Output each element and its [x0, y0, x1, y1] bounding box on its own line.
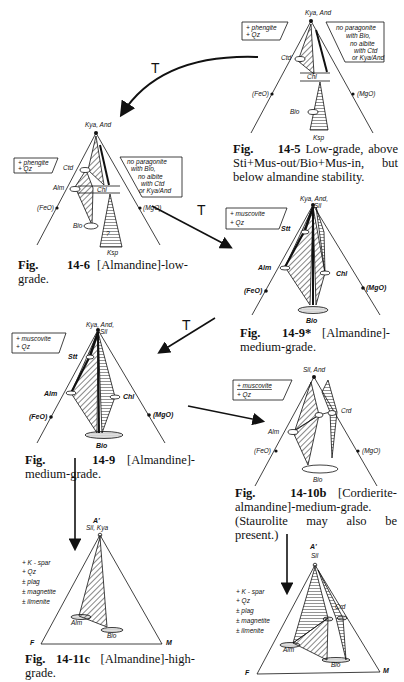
svg-text:(MgO): (MgO) [366, 284, 387, 292]
caption-14-6: Fig. 14-6 [Almandine]-low-grade. [18, 258, 188, 286]
svg-text:+ Qz: + Qz [18, 165, 33, 173]
arrow-14-5-to-14-6 [122, 57, 258, 114]
svg-text:+ Qz: + Qz [237, 391, 252, 399]
figure-14-9-star: Kya, And, Sil Stt Alm Chl Bio (FeO) (MgO… [226, 195, 387, 324]
svg-text:(MgO): (MgO) [153, 411, 174, 419]
svg-text:A': A' [92, 517, 100, 524]
svg-text:(FeO): (FeO) [244, 287, 263, 295]
svg-text:Bio: Bio [331, 661, 341, 668]
svg-text:Alm: Alm [282, 646, 295, 653]
svg-text:+ muscovite: + muscovite [16, 335, 51, 342]
svg-text:or Kya/And: or Kya/And [139, 187, 172, 195]
svg-text:Chl: Chl [97, 186, 107, 193]
svg-text:F: F [245, 669, 250, 676]
svg-text:Alm: Alm [52, 184, 65, 191]
svg-text:no albite: no albite [350, 40, 375, 47]
svg-text:Chl: Chl [307, 73, 317, 80]
svg-text:Bio: Bio [313, 476, 323, 483]
svg-text:Alm: Alm [70, 619, 83, 626]
svg-text:Sil, Kya: Sil, Kya [86, 524, 108, 532]
svg-text:with Bio,: with Bio, [131, 165, 156, 172]
svg-text:(FeO): (FeO) [254, 447, 271, 455]
svg-text:+ K - spar: + K - spar [22, 559, 51, 567]
svg-text:+ K - spar: + K - spar [236, 588, 265, 596]
svg-text:Ctd: Ctd [63, 164, 74, 171]
svg-text:(FeO): (FeO) [29, 413, 48, 421]
svg-text:+ Qz: + Qz [236, 597, 251, 605]
apex-label: Kya, And [305, 9, 332, 17]
svg-text:Sil, And: Sil, And [303, 366, 326, 373]
caption-14-5: Fig. 14-5 Low-grade, above Sti+Mus-out/B… [233, 142, 398, 184]
arrow-14-9-to-14-10b [188, 406, 262, 421]
arrow-label-T: T [182, 317, 191, 333]
caption-14-11c: Fig. 14-11c [Almandine]-high-grade. [25, 652, 195, 680]
figure-14-5: Kya, And Ctd Chl Bio Ksp (FeO) (MgO) + p… [242, 9, 385, 142]
svg-text:?: ? [106, 230, 110, 237]
svg-text:Chl: Chl [336, 270, 348, 277]
svg-text:(MgO): (MgO) [362, 447, 380, 455]
svg-text:Alm: Alm [267, 428, 280, 435]
svg-text:M: M [166, 639, 172, 646]
svg-text:Crd: Crd [335, 603, 346, 610]
svg-text:A': A' [309, 543, 317, 550]
figure-14-6: Kya, And Chl Ctd Alm Bio ? Ksp (FeO) (Mg… [14, 121, 182, 257]
svg-text:Crd: Crd [341, 407, 352, 414]
svg-text:Bio: Bio [107, 632, 117, 639]
svg-text:Sil: Sil [311, 552, 319, 559]
svg-text:Sil: Sil [100, 328, 108, 335]
svg-text:+ Qz: + Qz [22, 568, 37, 576]
svg-text:Kya, And: Kya, And [85, 121, 112, 129]
svg-text:± ilmenite: ± ilmenite [236, 627, 264, 634]
svg-text:F: F [30, 639, 35, 646]
svg-text:± magnetite: ± magnetite [22, 588, 56, 596]
svg-text:± plag: ± plag [236, 607, 254, 615]
svg-text:Stt: Stt [281, 225, 291, 232]
arrow-label-T: T [151, 60, 160, 76]
svg-text:± plag: ± plag [22, 578, 40, 586]
svg-text:with Bio,: with Bio, [346, 32, 371, 39]
svg-text:+ muscovite: + muscovite [237, 382, 272, 389]
svg-text:(FeO): (FeO) [37, 204, 54, 212]
svg-text:M: M [383, 667, 389, 674]
svg-text:(FeO): (FeO) [252, 90, 269, 98]
svg-text:Chl: Chl [123, 393, 135, 400]
svg-text:+ Qz: + Qz [16, 343, 31, 351]
svg-text:+ Qz: + Qz [230, 219, 245, 227]
svg-text:+ Qz: + Qz [246, 31, 261, 39]
svg-text:no paragonite: no paragonite [336, 24, 376, 32]
caption-14-9: Fig. 14-9 [Almandine]-medium-grade. [25, 453, 195, 481]
svg-text:or Kya/And: or Kya/And [352, 54, 385, 62]
figure-14-11c: A' Sil, Kya Alm Bio F M + K - spar + Qz … [22, 517, 172, 646]
arrow-14-6-to-14-9star [152, 206, 230, 247]
svg-text:Stt: Stt [68, 353, 78, 360]
svg-text:Bio: Bio [306, 317, 318, 324]
svg-text:Bio: Bio [73, 222, 83, 229]
arrow-label-T: T [197, 202, 206, 218]
figure-14-9: Kya, And, Sil Stt Alm Chl Bio (FeO) (MgO… [12, 321, 174, 449]
svg-text:Bio: Bio [96, 442, 108, 449]
caption-14-9-star: Fig. 14-9* [Almandine]-medium-grade. [240, 326, 390, 354]
svg-text:± ilmenite: ± ilmenite [22, 598, 50, 605]
svg-text:with Ctd: with Ctd [141, 180, 165, 187]
caption-14-10b: Fig. 14-10b [Cordierite-almandine]-mediu… [235, 486, 397, 542]
svg-text:Ksp: Ksp [107, 249, 119, 257]
figure-14-10b: Sil, And Crd Alm Bio (FeO) (MgO) + musco… [233, 366, 380, 486]
svg-text:(MgO): (MgO) [357, 90, 375, 98]
svg-text:(MgO): (MgO) [143, 204, 161, 212]
svg-text:Ctd: Ctd [281, 54, 292, 61]
svg-text:Alm: Alm [43, 390, 57, 397]
svg-text:Alm: Alm [257, 264, 271, 271]
svg-text:Ksp: Ksp [313, 134, 325, 142]
svg-text:Bio: Bio [290, 108, 300, 115]
svg-text:± magnetite: ± magnetite [236, 617, 270, 625]
figure-14-11c-cordierite: A' Sil Crd Alm Bio F M + K - spar + Qz ±… [236, 543, 389, 676]
svg-text:no albite: no albite [138, 173, 163, 180]
svg-text:with Ctd: with Ctd [354, 47, 378, 54]
svg-text:+ muscovite: + muscovite [230, 210, 265, 217]
